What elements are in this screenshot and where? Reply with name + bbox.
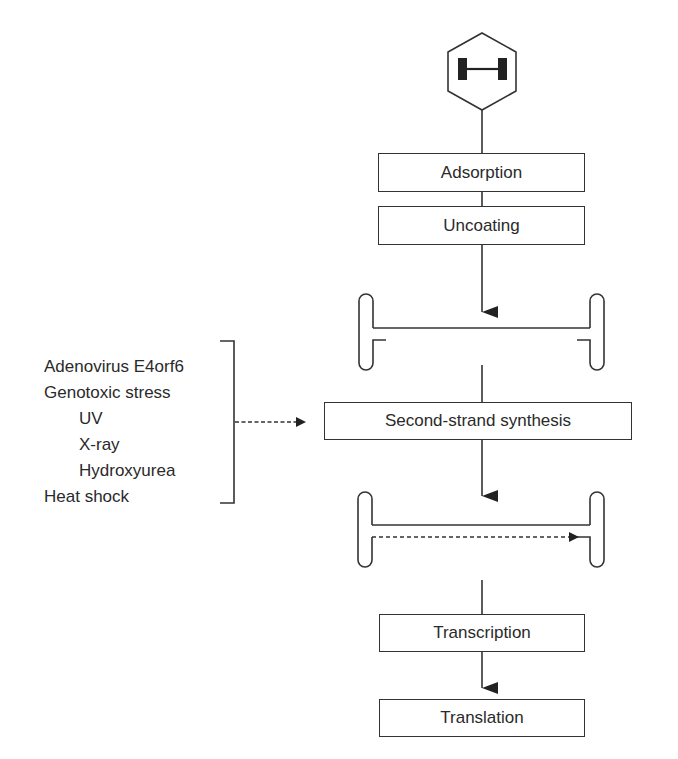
factors-bracket [220, 341, 234, 503]
virus-hexagon-icon [448, 33, 516, 110]
step-adsorption: Adsorption [378, 153, 585, 192]
factor-x-ray: X-ray [79, 435, 120, 455]
factor-hydroxyurea: Hydroxyurea [79, 461, 175, 481]
step-label: Transcription [433, 623, 531, 643]
step-transcription: Transcription [379, 614, 585, 652]
step-label: Second-strand synthesis [385, 411, 571, 431]
double-stranded-dna-icon [358, 492, 604, 567]
step-second-strand-synthesis: Second-strand synthesis [324, 402, 632, 440]
factor-adenovirus-e4orf6: Adenovirus E4orf6 [44, 357, 184, 377]
step-uncoating: Uncoating [378, 206, 585, 245]
factor-heat-shock: Heat shock [44, 487, 129, 507]
step-label: Translation [440, 708, 523, 728]
factor-genotoxic-stress: Genotoxic stress [44, 383, 171, 403]
factor-uv: UV [79, 409, 103, 429]
step-translation: Translation [379, 699, 585, 737]
step-label: Adsorption [441, 163, 522, 183]
step-label: Uncoating [443, 216, 520, 236]
